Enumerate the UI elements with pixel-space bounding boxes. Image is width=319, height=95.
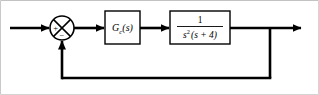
plant-block: 1 s2(s + 4) xyxy=(170,11,230,44)
plant-numerator: 1 xyxy=(198,15,203,25)
unity-feedback-path xyxy=(62,28,271,79)
denominator-exponent: 2 xyxy=(187,28,190,35)
block-diagram-figure: + − Gc(s) 1 s2(s + 4) xyxy=(0,0,319,95)
summing-junction: + − xyxy=(50,16,74,40)
controller-label-base: G xyxy=(112,22,119,33)
controller-block: Gc(s) xyxy=(105,11,140,44)
summing-junction-minus-sign: − xyxy=(60,30,65,40)
block-diagram-canvas: + − Gc(s) 1 s2(s + 4) xyxy=(0,0,319,95)
controller-label-suffix: (s) xyxy=(122,22,133,34)
denominator-rest: (s + 4) xyxy=(191,30,217,41)
controller-block-label: Gc(s) xyxy=(112,22,133,34)
summing-junction-plus-sign: + xyxy=(53,23,58,33)
